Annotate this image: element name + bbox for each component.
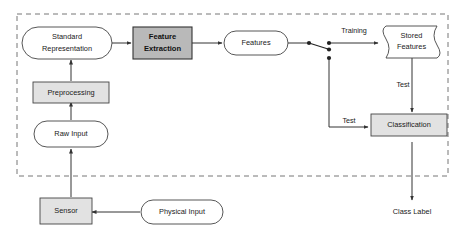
- switch-pole-test[interactable]: [327, 56, 331, 60]
- training-test-selector-switch[interactable]: [307, 41, 331, 60]
- edge-label-training: Training: [341, 26, 367, 35]
- node-sensor[interactable]: Sensor: [40, 198, 92, 224]
- node-classification-label: Classification: [387, 120, 431, 129]
- node-stored-features[interactable]: Stored Features: [383, 26, 440, 58]
- node-standard-representation[interactable]: Standard Representation: [22, 27, 112, 59]
- diagram-canvas: Standard Representation Feature Extracti…: [0, 0, 469, 237]
- node-feature-extraction[interactable]: Feature Extraction: [133, 27, 192, 59]
- node-feature-extraction-label-line2: Extraction: [144, 44, 181, 53]
- node-preprocessing[interactable]: Preprocessing: [33, 82, 109, 103]
- node-raw-input[interactable]: Raw Input: [34, 121, 108, 147]
- switch-arm[interactable]: [309, 43, 328, 49]
- edge-label-test-vertical: Test: [396, 80, 409, 89]
- pattern-recognition-diagram: Standard Representation Feature Extracti…: [0, 0, 469, 237]
- node-features-label: Features: [241, 38, 270, 47]
- node-standard-representation-label-line1: Standard: [52, 32, 82, 41]
- node-classification[interactable]: Classification: [371, 114, 447, 136]
- switch-pole-training[interactable]: [327, 41, 331, 45]
- node-raw-input-label: Raw Input: [54, 129, 87, 138]
- edge-label-test-horizontal: Test: [342, 116, 355, 125]
- switch-pole-contact[interactable]: [327, 47, 331, 51]
- node-preprocessing-label: Preprocessing: [47, 88, 94, 97]
- node-physical-input-label: Physical Input: [159, 207, 205, 216]
- node-feature-extraction-label-line1: Feature: [149, 32, 176, 41]
- node-physical-input[interactable]: Physical Input: [141, 200, 223, 224]
- node-stored-features-label-line1: Stored: [401, 31, 423, 40]
- node-stored-features-label-line2: Features: [397, 42, 426, 51]
- output-class-label: Class Label: [393, 207, 432, 216]
- node-sensor-label: Sensor: [54, 206, 78, 215]
- node-standard-representation-label-line2: Representation: [42, 44, 92, 53]
- node-features[interactable]: Features: [224, 31, 288, 55]
